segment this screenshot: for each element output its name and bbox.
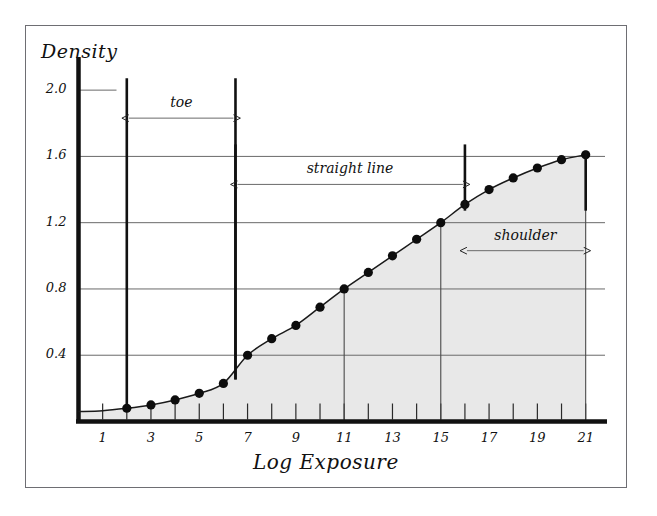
data-point-15 bbox=[436, 218, 445, 227]
figure-canvas: Density Log Exposure 0.40.81.21.62.0 135… bbox=[0, 0, 657, 516]
y-tick-label-2.0: 2.0 bbox=[37, 81, 67, 96]
data-point-12 bbox=[364, 268, 373, 277]
y-tick-label-1.6: 1.6 bbox=[37, 147, 67, 162]
data-point-6 bbox=[219, 379, 228, 388]
data-point-5 bbox=[195, 389, 204, 398]
x-tick-label-15: 15 bbox=[429, 430, 453, 445]
x-tick-label-5: 5 bbox=[187, 430, 211, 445]
data-point-3 bbox=[146, 400, 155, 409]
x-tick-label-7: 7 bbox=[236, 430, 260, 445]
data-point-11 bbox=[340, 284, 349, 293]
x-tick-label-11: 11 bbox=[332, 430, 356, 445]
x-tick-label-21: 21 bbox=[574, 430, 598, 445]
data-point-9 bbox=[291, 321, 300, 330]
x-tick-label-13: 13 bbox=[380, 430, 404, 445]
x-tick-label-17: 17 bbox=[477, 430, 501, 445]
annotation-label-straight-line: straight line bbox=[307, 160, 394, 176]
annotation-label-toe: toe bbox=[170, 94, 192, 110]
data-point-8 bbox=[267, 334, 276, 343]
data-point-4 bbox=[171, 395, 180, 404]
data-point-17 bbox=[484, 185, 493, 194]
data-point-2 bbox=[122, 404, 131, 413]
data-point-14 bbox=[412, 235, 421, 244]
x-tick-label-1: 1 bbox=[91, 430, 115, 445]
data-point-20 bbox=[557, 155, 566, 164]
annotation-label-shoulder: shoulder bbox=[494, 227, 556, 243]
y-tick-label-1.2: 1.2 bbox=[37, 214, 67, 229]
x-tick-label-19: 19 bbox=[525, 430, 549, 445]
data-point-10 bbox=[315, 303, 324, 312]
x-tick-label-9: 9 bbox=[284, 430, 308, 445]
y-tick-label-0.4: 0.4 bbox=[37, 346, 67, 361]
data-point-13 bbox=[388, 251, 397, 260]
data-point-18 bbox=[509, 173, 518, 182]
y-tick-label-0.8: 0.8 bbox=[37, 280, 67, 295]
data-point-19 bbox=[533, 163, 542, 172]
y-axis-title: Density bbox=[41, 40, 117, 62]
data-point-7 bbox=[243, 351, 252, 360]
x-tick-label-3: 3 bbox=[139, 430, 163, 445]
x-axis-title: Log Exposure bbox=[253, 450, 399, 474]
curve-area-fill bbox=[79, 155, 586, 422]
